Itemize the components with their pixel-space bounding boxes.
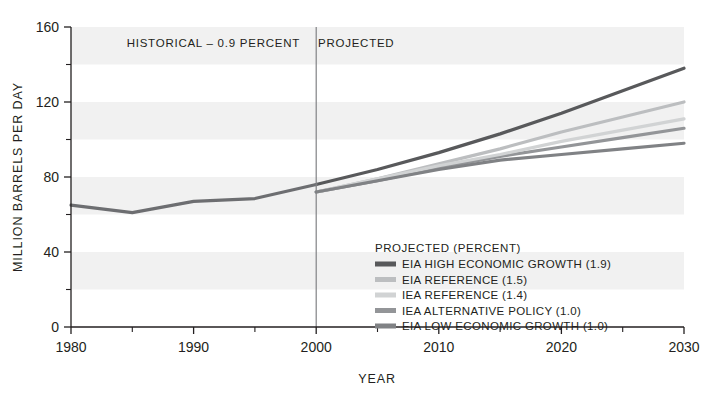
- annotation-historical: HISTORICAL – 0.9 PERCENT: [127, 37, 300, 49]
- x-tick-label: 1980: [55, 339, 86, 355]
- oil-demand-line-chart: 16012080400 198019902000201020202030 MIL…: [0, 0, 704, 409]
- x-axis-title: YEAR: [358, 372, 396, 386]
- legend-title: PROJECTED (PERCENT): [375, 242, 521, 254]
- y-axis: [64, 27, 71, 327]
- legend-swatch: [375, 324, 396, 329]
- legend-item-label: EIA HIGH ECONOMIC GROWTH (1.9): [402, 258, 611, 270]
- legend-swatch: [375, 262, 396, 267]
- y-axis-title: MILLION BARRELS PER DAY: [11, 82, 25, 272]
- legend-swatch: [375, 308, 396, 313]
- chart-container: 16012080400 198019902000201020202030 MIL…: [0, 0, 704, 409]
- y-tick-label: 120: [36, 94, 60, 110]
- legend-swatch: [375, 277, 396, 282]
- y-tick-label: 40: [43, 244, 59, 260]
- y-tick-label: 0: [51, 319, 59, 335]
- x-tick-label: 2000: [301, 339, 332, 355]
- y-axis-tick-labels: 16012080400: [36, 19, 60, 335]
- legend-item-label: EIA REFERENCE (1.5): [402, 274, 528, 286]
- y-tick-label: 80: [43, 169, 59, 185]
- legend-swatch: [375, 293, 396, 298]
- y-tick-label: 160: [36, 19, 60, 35]
- x-tick-label: 2010: [423, 339, 454, 355]
- annotation-projected: PROJECTED: [318, 37, 394, 49]
- x-tick-label: 2030: [668, 339, 699, 355]
- x-axis-tick-labels: 198019902000201020202030: [55, 339, 699, 355]
- x-tick-label: 2020: [546, 339, 577, 355]
- x-tick-label: 1990: [178, 339, 209, 355]
- legend-item-label: EIA LOW ECONOMIC GROWTH (1.0): [402, 320, 608, 332]
- legend-item-label: IEA ALTERNATIVE POLICY (1.0): [402, 305, 581, 317]
- legend-item-label: IEA REFERENCE (1.4): [402, 289, 528, 301]
